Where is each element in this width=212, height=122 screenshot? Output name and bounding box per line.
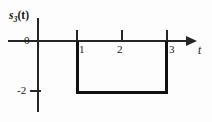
y-tick-label-0: 0 bbox=[24, 35, 30, 46]
x-axis-label: t bbox=[198, 45, 201, 57]
y-tick-mark-0 bbox=[30, 40, 41, 42]
x-tick-label-1: 1 bbox=[79, 44, 85, 55]
x-tick-mark-1 bbox=[76, 30, 78, 41]
y-axis-signal-label: s3(t) bbox=[9, 10, 29, 24]
time-axis-arrow-icon bbox=[186, 36, 197, 46]
pulse-rising-edge bbox=[76, 41, 79, 93]
value-axis-line bbox=[37, 18, 39, 112]
x-tick-mark-3 bbox=[166, 30, 168, 41]
x-tick-label-3: 3 bbox=[169, 44, 175, 55]
signal-argument: (t) bbox=[17, 9, 29, 21]
y-tick-label-minus2: -2 bbox=[17, 85, 26, 96]
signal-plot-figure: s3(t) t 0 -2 1 2 3 bbox=[0, 0, 212, 122]
x-tick-mark-2 bbox=[121, 30, 123, 41]
pulse-falling-edge bbox=[165, 41, 168, 93]
y-tick-mark-minus2 bbox=[30, 90, 41, 92]
x-tick-label-2: 2 bbox=[117, 44, 123, 55]
pulse-bottom-level bbox=[76, 91, 168, 94]
